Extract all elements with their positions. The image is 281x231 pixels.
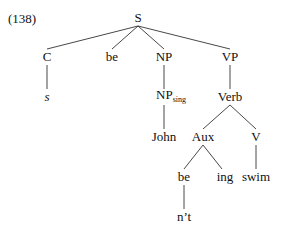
example-number: (138) xyxy=(8,12,36,26)
np-base: NP xyxy=(156,87,173,102)
node-VP: VP xyxy=(222,50,239,64)
node-Aux: Aux xyxy=(192,130,214,144)
node-swim: swim xyxy=(242,170,270,184)
tree-edges xyxy=(0,0,281,231)
node-John: John xyxy=(152,130,177,144)
node-Verb: Verb xyxy=(218,90,243,104)
node-ing: ing xyxy=(217,170,234,184)
node-NP: NP xyxy=(156,50,173,64)
node-S: S xyxy=(134,11,141,25)
node-nt: n’t xyxy=(177,210,191,224)
node-C: C xyxy=(43,50,52,64)
node-be-aux: be xyxy=(178,170,190,184)
np-subscript: sing xyxy=(173,95,186,104)
node-s: s xyxy=(44,90,49,104)
node-V: V xyxy=(251,130,260,144)
node-be: be xyxy=(106,50,118,64)
node-NP-sing: NPsing xyxy=(156,88,186,107)
